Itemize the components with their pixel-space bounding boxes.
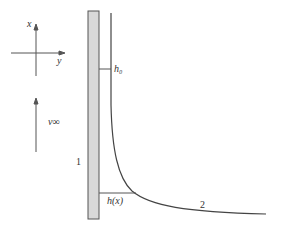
velocity-arrow-icon [34,98,38,152]
film-label: 2 [200,200,205,210]
plate-label: 1 [76,157,81,167]
plate [88,11,99,219]
h0-label: h₀ [114,64,122,74]
hx-label: h(x) [107,196,123,206]
film-surface-curve [111,13,266,214]
axes-icon [11,24,65,76]
x-axis-label: x [27,19,31,29]
y-axis-label: y [57,56,61,66]
velocity-label: ν∞ [48,117,60,127]
diagram-canvas [0,0,283,232]
